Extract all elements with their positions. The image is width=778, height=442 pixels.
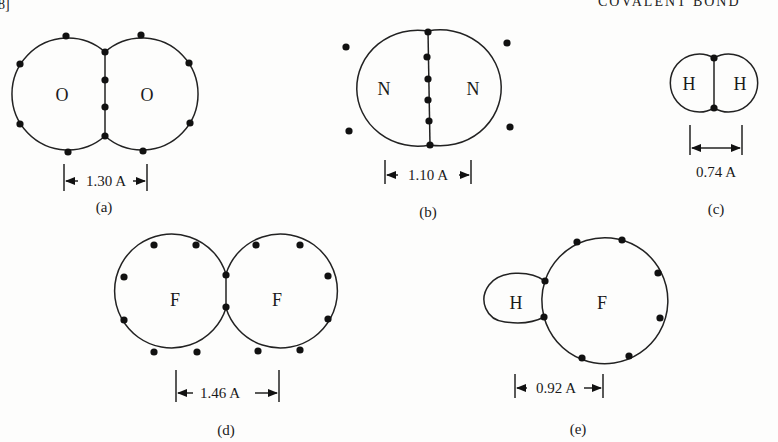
atom-label: O <box>56 85 69 105</box>
bond-length-label: 1.30 A <box>86 173 126 189</box>
atom-label: H <box>734 74 747 94</box>
figure-d-f2: F F 1.46 A (d) <box>115 234 338 439</box>
running-head: COVALENT BOND <box>598 0 741 9</box>
nitrogen-left-shell <box>357 30 430 146</box>
figure-b-n2: N N 1.10 A (b) <box>342 28 513 221</box>
shared-boundary <box>542 281 545 317</box>
page-number-fragment: 8] <box>0 0 10 12</box>
bond-length-label: 1.10 A <box>408 167 448 183</box>
figure-e-hf: H F 0.92 A (e) <box>484 236 668 438</box>
atom-label: N <box>378 79 391 99</box>
nitrogen-right-shell <box>428 30 501 146</box>
figure-caption: (b) <box>419 204 437 221</box>
figure-caption: (e) <box>570 421 587 438</box>
figure-caption: (d) <box>217 422 235 439</box>
atom-label: O <box>141 85 154 105</box>
bond-length-label: 0.74 A <box>696 164 736 180</box>
atom-label: F <box>597 293 607 313</box>
atom-label: H <box>683 74 696 94</box>
atom-label: F <box>170 290 180 310</box>
shared-boundary <box>428 31 430 145</box>
figure-a-o2: O O 1.30 A (a) <box>12 31 198 216</box>
bond-length-label: 1.46 A <box>200 385 240 401</box>
atom-label: F <box>272 290 282 310</box>
figure-caption: (c) <box>708 201 725 218</box>
figure-c-h2: H H 0.74 A (c) <box>670 54 757 218</box>
bond-length-label: 0.92 A <box>536 380 576 396</box>
covalent-bond-diagrams: 8] COVALENT BOND O O 1.30 A (a) <box>0 0 778 442</box>
atom-label: N <box>467 79 480 99</box>
atom-label: H <box>510 293 523 313</box>
figure-caption: (a) <box>96 199 113 216</box>
